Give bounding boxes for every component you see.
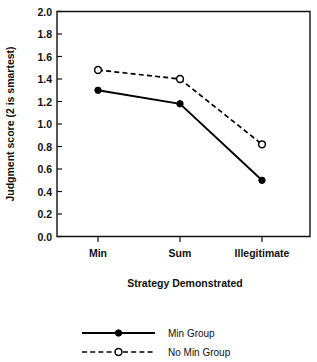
y-axis-tick-labels: 2.0 1.8 1.6 1.4 1.2 1.0 0.8 0.6 0.4 0.2 … <box>37 6 52 243</box>
legend-label-no-min-group: No Min Group <box>168 347 231 358</box>
series-no-min-group-point-sum <box>177 76 184 83</box>
x-tick-label-illegitimate: Illegitimate <box>235 247 290 259</box>
legend-swatch-marker-no-min-group <box>115 349 122 356</box>
series-no-min-group-point-min <box>95 67 102 74</box>
plot-border <box>57 12 310 237</box>
series-no-min-group-point-illegitimate <box>259 141 266 148</box>
y-axis-title: Judgment score (2 is smartest) <box>4 46 16 201</box>
chart-legend: Min Group No Min Group <box>82 328 231 358</box>
chart-figure: 2.0 1.8 1.6 1.4 1.2 1.0 0.8 0.6 0.4 0.2 … <box>0 0 317 362</box>
series-min-group <box>95 87 265 183</box>
y-tick-label-0: 2.0 <box>37 6 52 18</box>
y-tick-label-7: 0.6 <box>37 163 52 175</box>
y-tick-label-9: 0.2 <box>37 208 52 220</box>
x-tick-label-min: Min <box>89 247 107 259</box>
y-axis-ticks <box>57 12 62 237</box>
x-axis-ticks <box>98 237 262 243</box>
legend-swatch-marker-min-group <box>115 330 121 336</box>
plot-frame <box>57 12 310 237</box>
y-tick-label-8: 0.4 <box>37 186 52 198</box>
y-tick-label-3: 1.4 <box>37 73 52 85</box>
y-tick-label-6: 0.8 <box>37 141 52 153</box>
x-axis-tick-labels: Min Sum Illegitimate <box>89 247 290 259</box>
x-axis-title: Strategy Demonstrated <box>127 277 243 289</box>
line-chart-svg: 2.0 1.8 1.6 1.4 1.2 1.0 0.8 0.6 0.4 0.2 … <box>0 0 317 362</box>
series-min-group-point-min <box>95 87 101 93</box>
legend-entry-no-min-group: No Min Group <box>82 347 231 358</box>
series-min-group-point-sum <box>177 101 183 107</box>
y-tick-label-10: 0.0 <box>37 231 52 243</box>
x-tick-label-sum: Sum <box>169 247 192 259</box>
y-tick-label-4: 1.2 <box>37 96 52 108</box>
y-tick-label-1: 1.8 <box>37 28 52 40</box>
y-tick-label-2: 1.6 <box>37 51 52 63</box>
series-min-group-point-illegitimate <box>259 177 265 183</box>
legend-entry-min-group: Min Group <box>82 328 215 339</box>
y-tick-label-5: 1.0 <box>37 118 52 130</box>
legend-label-min-group: Min Group <box>168 328 215 339</box>
